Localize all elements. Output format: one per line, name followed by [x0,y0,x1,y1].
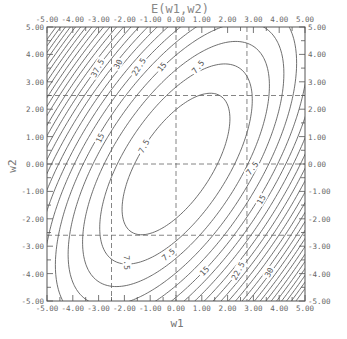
y-tick-label: -2.00 [21,215,44,224]
x-tick-label: 1.00 [193,15,212,24]
x-tick-label: -2.00 [113,304,136,313]
svg-text:7.5: 7.5 [122,255,132,270]
contour-label: 22.5 [129,55,149,79]
x-tick-label: -4.00 [62,15,85,24]
contour-label: 30 [262,265,276,280]
y-tick-label: 0.00 [26,160,45,169]
x-tick-label: -3.00 [87,304,110,313]
y-tick-label: -3.00 [21,242,44,251]
chart-title: E(w1,w2) [151,2,209,16]
x-tick-label: -3.00 [87,15,110,24]
contour-label: 15 [197,263,212,278]
y-tick-label: 5.00 [308,23,327,32]
y-tick-label: 2.00 [26,105,45,114]
contour-label: 7.5 [136,137,152,156]
x-axis-title: w1 [170,317,183,330]
x-tick-label: 0.00 [167,304,186,313]
x-tick-label: -4.00 [62,304,85,313]
contour-label: 7.5 [189,57,207,76]
y-tick-label: -3.00 [308,242,331,251]
y-tick-label: 3.00 [26,78,45,87]
svg-text:15: 15 [255,193,268,206]
contour-label: 15 [155,59,170,74]
contour-label: 15 [254,192,268,207]
contour-labels: 37.53022.5157.5157.57.5157.57.51522.530 [88,55,276,283]
contour-label: 7.5 [159,246,178,264]
x-tick-label: 3.00 [244,304,263,313]
x-tick-label: 4.00 [270,15,289,24]
y-tick-label: -4.00 [21,270,44,279]
y-tick-label: -1.00 [308,187,331,196]
x-tick-label: -2.00 [113,15,136,24]
bottom-axis-tick-labels: -5.00-4.00-3.00-2.00-1.000.001.002.003.0… [36,304,315,313]
x-tick-label: 2.00 [219,15,238,24]
contour-label: 7.5 [122,254,132,271]
x-tick-label: 0.00 [167,15,186,24]
y-tick-label: 1.00 [26,133,45,142]
y-tick-label: 4.00 [26,50,45,59]
contour-label: 15 [93,131,107,146]
y-tick-label: -1.00 [21,187,44,196]
left-axis-tick-labels: 5.004.003.002.001.000.00-1.00-2.00-3.00-… [21,23,44,306]
y-tick-label: -5.00 [308,297,331,306]
right-axis-tick-labels: 5.004.003.002.001.000.00-1.00-2.00-3.00-… [308,23,331,306]
y-tick-label: -4.00 [308,270,331,279]
x-tick-label: -1.00 [139,15,162,24]
y-tick-label: 3.00 [308,78,327,87]
x-tick-label: 2.00 [219,304,238,313]
y-tick-label: 2.00 [308,105,327,114]
x-tick-label: 4.00 [270,304,289,313]
y-tick-label: -5.00 [21,297,44,306]
x-tick-label: -1.00 [139,304,162,313]
x-tick-label: 3.00 [244,15,263,24]
top-axis-tick-labels: -5.00-4.00-3.00-2.00-1.000.001.002.003.0… [36,15,315,24]
contour-label: 7.5 [243,159,261,178]
y-tick-label: 5.00 [26,23,45,32]
contour-chart: E(w1,w2) -5.00-4.00-3.00-2.00-1.000.001.… [0,0,347,339]
y-tick-label: 1.00 [308,133,327,142]
y-tick-label: 0.00 [308,160,327,169]
y-tick-label: -2.00 [308,215,331,224]
dashed-guide-lines [47,27,305,301]
y-tick-label: 4.00 [308,50,327,59]
contour-label: 30 [111,57,125,72]
x-tick-label: 1.00 [193,304,212,313]
y-axis-title: w2 [6,159,19,172]
svg-text:22.5: 22.5 [230,260,247,281]
